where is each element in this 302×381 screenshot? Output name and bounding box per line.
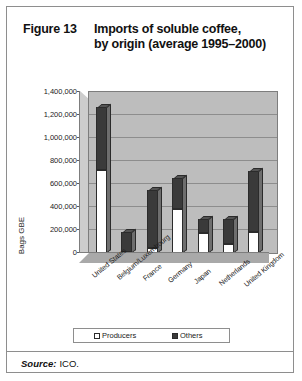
chart: Bags GBE 1,400,000 1,200,000 1,000,000 8… xyxy=(7,91,294,341)
legend-item-producers: Producers xyxy=(94,331,136,340)
y-tick-label: 0 xyxy=(31,248,77,257)
footer-divider xyxy=(7,351,293,352)
y-tick-label: 1,000,000 xyxy=(31,133,77,142)
bar-segment-producers xyxy=(198,233,209,253)
bar-side-face xyxy=(209,216,213,253)
bar-side-face xyxy=(132,229,136,253)
bar-segment-others xyxy=(96,107,107,170)
y-tick-label: 1,400,000 xyxy=(31,87,77,96)
bar-segment-producers xyxy=(172,209,183,253)
bar-side-face xyxy=(234,216,238,253)
figure-container: Figure 13 Imports of soluble coffee, by … xyxy=(6,6,294,373)
bar-segment-producers xyxy=(96,170,107,253)
legend-item-others: Others xyxy=(172,331,203,340)
bar-segment-others xyxy=(198,219,209,233)
source-note: Source:ICO. xyxy=(21,358,79,369)
bar-united-kingdom xyxy=(248,171,259,253)
y-axis-ticks: 1,400,000 1,200,000 1,000,000 800,000 60… xyxy=(23,91,77,263)
bar-side-face xyxy=(107,104,111,253)
gridline xyxy=(89,137,277,138)
figure-header: Figure 13 Imports of soluble coffee, by … xyxy=(7,20,293,66)
bar-side-face xyxy=(183,175,187,253)
source-label: Source: xyxy=(21,358,56,369)
figure-title-line-1: Imports of soluble coffee, xyxy=(94,22,289,37)
legend-swatch-others-icon xyxy=(172,333,178,339)
y-tick-label: 600,000 xyxy=(31,179,77,188)
bar-japan xyxy=(198,219,209,253)
bar-netherlands xyxy=(223,219,234,253)
legend-label-producers: Producers xyxy=(102,331,136,340)
bar-segment-others xyxy=(223,219,234,244)
y-tick-label: 800,000 xyxy=(31,156,77,165)
plot-floor-corner xyxy=(79,253,89,263)
x-axis-label: Japan xyxy=(192,267,212,286)
plot-area xyxy=(79,91,278,263)
x-axis-label: France xyxy=(141,262,163,283)
plot-back-wall xyxy=(88,91,278,254)
chart-legend: Producers Others xyxy=(73,328,230,343)
bar-side-face xyxy=(259,168,263,253)
figure-title: Imports of soluble coffee, by origin (av… xyxy=(94,22,289,52)
source-value: ICO. xyxy=(59,358,79,369)
bar-germany xyxy=(172,178,183,253)
bar-segment-producers xyxy=(248,232,259,253)
gridline xyxy=(89,160,277,161)
bar-segment-others xyxy=(172,178,183,209)
legend-label-others: Others xyxy=(180,331,203,340)
bar-united-states xyxy=(96,107,107,253)
figure-number: Figure 13 xyxy=(23,22,77,36)
y-tick-label: 400,000 xyxy=(31,202,77,211)
gridline xyxy=(89,114,277,115)
bar-segment-others xyxy=(248,171,259,232)
y-tick-label: 200,000 xyxy=(31,225,77,234)
y-tick-label: 1,200,000 xyxy=(31,110,77,119)
legend-swatch-producers-icon xyxy=(94,333,100,339)
figure-title-line-2: by origin (average 1995–2000) xyxy=(94,37,289,52)
